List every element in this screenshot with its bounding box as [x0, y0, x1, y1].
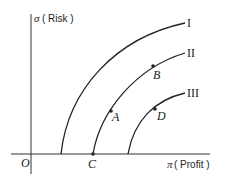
- risk-profit-diagram: I II III A B C D O σ ( Risk ) π ( Profit…: [0, 0, 225, 180]
- point-label-A: A: [111, 110, 120, 124]
- point-C: [91, 152, 95, 156]
- curve-label-I: I: [187, 16, 191, 30]
- y-axis-label: ( Risk ): [42, 13, 74, 24]
- point-label-C: C: [88, 157, 97, 171]
- curve-II: [93, 53, 185, 154]
- point-label-D: D: [156, 109, 166, 123]
- origin-label: O: [21, 156, 30, 170]
- y-axis-symbol: σ: [34, 12, 40, 24]
- point-label-B: B: [153, 68, 161, 82]
- diagram-canvas: I II III A B C D O σ ( Risk ) π ( Profit…: [0, 0, 225, 180]
- curve-I: [61, 23, 185, 154]
- curve-label-III: III: [187, 86, 199, 100]
- curve-III: [128, 93, 185, 154]
- curve-label-II: II: [187, 46, 195, 60]
- x-axis-label: ( Profit ): [174, 159, 210, 170]
- x-axis-symbol: π: [167, 158, 173, 170]
